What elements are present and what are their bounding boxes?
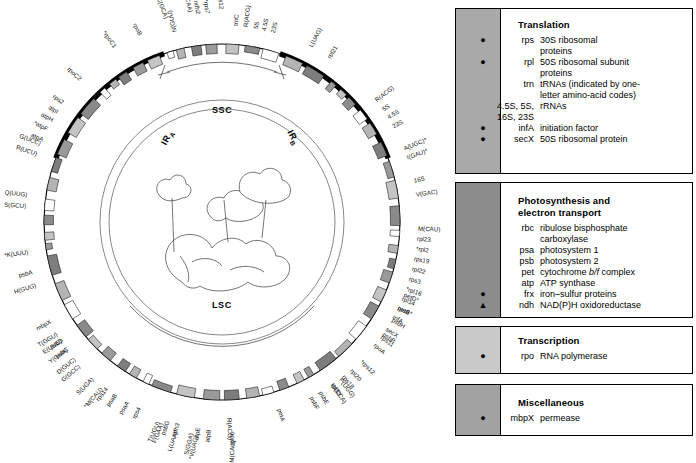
gene-segment [118,358,131,371]
gene-segment [293,371,304,383]
gene-segment [44,232,54,240]
legend-entry: ●mbpXpermease [456,413,690,424]
legend-entry: psaphotosystem 1 [456,245,690,256]
legend-entry: ●rps30S ribosomal [456,35,690,46]
legend-title: Photosynthesis and [518,195,610,206]
circle-marker-icon: ● [478,134,488,145]
gene-segment [176,48,186,59]
gene-segment [226,44,239,54]
legend-gene-name: psb [490,256,534,267]
gene-segment [224,390,239,400]
legend-description-continuation: letter amino-acid codes) [456,90,690,101]
gene-segment [390,206,400,226]
legend-description-line2: proteins [540,68,688,79]
gene-segment [167,51,175,59]
gene-segment [315,351,336,370]
gene-segment [335,339,352,356]
legend-gene-name: 4.5S, 5S, [476,101,534,112]
gene-label: *rps12 [216,0,224,9]
legend-description-continuation: carboxylase [456,234,690,245]
legend-color-swatch [456,385,500,435]
legend-color-swatch [456,327,500,373]
gene-segment [244,46,259,55]
legend-description: permease [540,413,688,424]
gene-segment [55,280,71,300]
gene-segment [191,45,202,56]
circle-marker-icon: ● [478,57,488,68]
legend-description: iron–sulfur proteins [540,289,688,300]
plant-illustration [157,168,291,291]
gene-segment [64,300,80,319]
legend-entry: ●infAinitiation factor [456,123,690,134]
legend-entry: petcytochrome b/f complex [456,267,690,278]
region-label-lsc: LSC [212,300,232,310]
gene-label: M(CAU) [228,440,236,463]
gene-segment [57,139,72,158]
legend-box-translation: Translation●rps30S ribosomalproteins●rpl… [455,8,693,174]
legend-description: cytochrome b/f complex [540,267,688,278]
legend-gene-name: rpl [490,57,534,68]
legend-gene-name: mbpX [490,413,534,424]
legend-gene-name: pet [490,267,534,278]
circle-marker-icon: ● [478,351,488,362]
genome-ring [44,44,400,400]
gene-segment [373,286,387,301]
gene-segment [390,230,400,237]
legend-gene-name: rbc [490,223,534,234]
gene-segment [51,157,62,173]
legend-entry-continuation: 16S, 23S [456,112,690,123]
legend-box-photosynthesis: Photosynthesis andelectron transportrbcr… [455,182,693,318]
legend-description: 50S ribosomal protein [540,134,688,145]
legend-description-line2: carboxylase [540,234,688,245]
gene-segment [261,49,279,63]
legend-description: NAD(P)H oxidoreductase [540,300,688,311]
legend-description-line2: letter amino-acid codes) [540,90,688,101]
legend-description: RNA polymerase [540,351,688,362]
gene-label: *rps7 [202,0,211,14]
gene-segment [245,387,259,399]
legend-description: 30S ribosomal [540,35,688,46]
gene-label: M(CAU) [418,226,441,233]
legend-title-line2: electron transport [518,207,601,218]
legend-entry: rbcribulose bisphosphate [456,223,690,234]
legend-entry: ▲ndhNAD(P)H oxidoreductase [456,300,690,311]
gene-segment [44,199,55,211]
gene-segment [47,254,61,275]
legend-entry: ●rpl50S ribosomal subunit [456,57,690,68]
legend-entry: atpATP synthase [456,278,690,289]
legend-panel: Translation●rps30S ribosomalproteins●rpl… [455,8,693,433]
region-label-ssc: SSC [212,105,232,115]
legend-gene-name: psa [490,245,534,256]
legend-description: photosystem 2 [540,256,688,267]
circle-marker-icon: ● [478,289,488,300]
legend-gene-name: rps [490,35,534,46]
legend-gene-name-line2: 16S, 23S [476,112,534,123]
legend-gene-name: ndh [490,300,534,311]
gene-segment [363,302,378,319]
gene-segment [388,244,399,253]
gene-segment [130,366,141,378]
gene-segment [88,335,102,349]
circle-marker-icon: ● [478,123,488,134]
gene-segment [386,180,399,199]
circle-marker-icon: ● [478,413,488,424]
gene-segment [380,269,392,282]
legend-entry: ●rpoRNA polymerase [456,351,690,362]
gene-segment [177,385,196,398]
legend-entry: psbphotosystem 2 [456,256,690,267]
legend-gene-name: rpo [490,351,534,362]
gene-segment [152,380,173,393]
legend-title: Miscellaneous [518,397,584,408]
circle-marker-icon: ● [478,35,488,46]
legend-gene-name: infA [490,123,534,134]
legend-entry: 4.5S, 5S,rRNAs [456,101,690,112]
triangle-marker-icon: ▲ [478,300,488,311]
gene-segment [45,243,52,250]
legend-description-continuation: proteins [456,46,690,57]
gene-segment [44,215,54,225]
gene-segment [349,321,366,339]
gene-segment [143,373,153,384]
legend-description: tRNAs (indicated by one- [540,79,688,90]
legend-gene-name: trn [490,79,534,90]
gene-label: rpl23 [417,236,431,244]
